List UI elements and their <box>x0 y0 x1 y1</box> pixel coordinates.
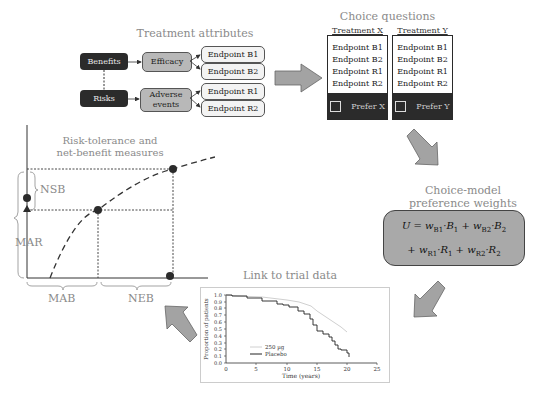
svg-text:0.7: 0.7 <box>214 312 222 318</box>
survival-chart: 0.00.10.2 0.30.40.5 0.60.70.8 0.91.0 051… <box>200 287 388 381</box>
prefer-y-option[interactable]: Prefer Y <box>393 93 452 119</box>
preference-weights-title: Choice-model preference weights <box>400 184 526 210</box>
svg-text:0.2: 0.2 <box>214 346 222 352</box>
svg-text:5: 5 <box>254 366 258 372</box>
arrow-up-left-icon <box>155 305 200 350</box>
prefer-x-checkbox[interactable] <box>330 101 341 112</box>
prefer-x-option[interactable]: Prefer X <box>328 93 387 119</box>
arrow-right-icon <box>274 63 324 93</box>
choice-y-endpoint-r2: Endpoint R2 <box>393 78 452 90</box>
arrow-down-right-icon <box>405 128 445 168</box>
svg-text:0.8: 0.8 <box>214 305 222 311</box>
svg-text:0.0: 0.0 <box>214 360 222 366</box>
legend-250ug: 250 µg <box>265 344 285 351</box>
arrow-down-left-icon <box>408 280 448 320</box>
legend-placebo: Placebo <box>265 351 288 357</box>
choice-x-endpoint-r2: Endpoint R2 <box>328 78 387 90</box>
utility-formula-box: U = wB1·B1 + wB2·B2 + wR1·R1 + wR2·R2 <box>383 210 525 266</box>
risk-tolerance-chart <box>0 120 215 300</box>
svg-text:0.1: 0.1 <box>214 353 222 359</box>
choice-y-endpoint-b2: Endpoint B2 <box>393 54 452 66</box>
trial-link-title: Link to trial data <box>230 269 350 282</box>
svg-text:20: 20 <box>344 366 351 372</box>
svg-text:1.0: 1.0 <box>214 292 222 298</box>
choice-x-endpoint-b2: Endpoint B2 <box>328 54 387 66</box>
y-axis-label: Proportion of patients <box>203 298 210 360</box>
treatment-x-header: Treatment X <box>327 26 388 35</box>
svg-text:25: 25 <box>374 366 381 372</box>
choice-x-endpoint-r1: Endpoint R1 <box>328 66 387 78</box>
svg-text:0.4: 0.4 <box>214 333 222 339</box>
svg-text:0.9: 0.9 <box>214 299 222 305</box>
mab-label: MAB <box>48 292 75 305</box>
svg-text:0: 0 <box>224 366 228 372</box>
prefer-y-checkbox[interactable] <box>395 101 406 112</box>
x-axis-label: Time (years) <box>282 372 320 380</box>
formula-line-2: + wR1·R1 + wR2·R2 <box>384 244 524 258</box>
choice-questions-title: Choice questions <box>325 10 450 23</box>
choice-y-endpoint-r1: Endpoint R1 <box>393 66 452 78</box>
svg-text:0.5: 0.5 <box>214 326 222 332</box>
svg-text:0.3: 0.3 <box>214 340 222 346</box>
preference-title-line1: Choice-model <box>400 184 526 197</box>
prefer-x-label: Prefer X <box>351 102 385 111</box>
choice-card-x: Treatment X Endpoint B1 Endpoint B2 Endp… <box>327 26 388 120</box>
treatment-y-header: Treatment Y <box>392 26 453 35</box>
mar-label: MAR <box>15 236 43 249</box>
formula-line-1: U = wB1·B1 + wB2·B2 <box>384 220 524 234</box>
choice-x-endpoint-b1: Endpoint B1 <box>328 42 387 54</box>
prefer-y-label: Prefer Y <box>416 102 449 111</box>
svg-text:0.6: 0.6 <box>214 319 222 325</box>
nsb-label: NSB <box>40 183 65 196</box>
neb-label: NEB <box>128 292 154 305</box>
preference-title-line2: preference weights <box>400 197 526 210</box>
choice-card-y: Treatment Y Endpoint B1 Endpoint B2 Endp… <box>392 26 453 120</box>
choice-y-endpoint-b1: Endpoint B1 <box>393 42 452 54</box>
